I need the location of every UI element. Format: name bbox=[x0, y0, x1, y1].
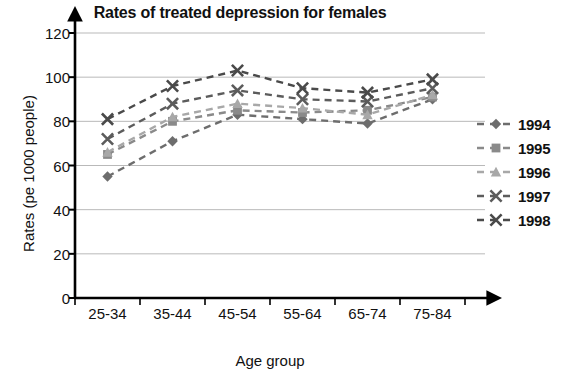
y-tick-label-0: 0 bbox=[34, 290, 70, 307]
legend-label: 1998 bbox=[518, 212, 550, 229]
chart-title: Rates of treated depression for females bbox=[0, 4, 480, 22]
legend-item-1994[interactable]: 1994 bbox=[476, 112, 568, 136]
series-1996 bbox=[102, 90, 437, 157]
marker-diamond bbox=[167, 136, 177, 146]
legend-marker-square-icon bbox=[476, 138, 516, 158]
series-line-1997 bbox=[108, 88, 433, 139]
y-axis-tick-labels: 020406080100120 bbox=[28, 33, 70, 298]
y-tick-label-80: 80 bbox=[34, 113, 70, 130]
marker-x bbox=[297, 83, 308, 94]
legend-item-1996[interactable]: 1996 bbox=[476, 160, 568, 184]
marker-x bbox=[102, 133, 113, 144]
x-tick-label-45-54: 45-54 bbox=[203, 305, 273, 322]
x-axis-tick-labels: 25-3435-4445-5455-6465-7475-84 bbox=[75, 305, 465, 329]
y-tick-label-60: 60 bbox=[34, 157, 70, 174]
series-line-1996 bbox=[108, 95, 433, 152]
x-axis-title: Age group bbox=[75, 352, 465, 369]
legend-label: 1994 bbox=[518, 116, 550, 133]
marker-diamond bbox=[491, 119, 501, 129]
x-tick-label-35-44: 35-44 bbox=[138, 305, 208, 322]
x-tick-label-65-74: 65-74 bbox=[333, 305, 403, 322]
plot-area bbox=[75, 33, 465, 298]
legend-label: 1997 bbox=[518, 188, 550, 205]
chart-legend: 19941995199619971998 bbox=[476, 112, 568, 232]
legend-item-1998[interactable]: 1998 bbox=[476, 208, 568, 232]
marker-square bbox=[492, 144, 501, 153]
x-tick-label-25-34: 25-34 bbox=[73, 305, 143, 322]
series-1995 bbox=[103, 93, 437, 159]
legend-label: 1995 bbox=[518, 140, 550, 157]
y-tick-label-100: 100 bbox=[34, 69, 70, 86]
chart-figure: Rates of treated depression for females … bbox=[0, 0, 569, 383]
marker-diamond bbox=[102, 171, 112, 181]
x-tick-label-75-84: 75-84 bbox=[398, 305, 468, 322]
legend-marker-diamond-icon bbox=[476, 114, 516, 134]
series-1997 bbox=[102, 83, 438, 145]
y-tick-label-120: 120 bbox=[34, 25, 70, 42]
plot-svg bbox=[75, 33, 465, 298]
x-tick-label-55-64: 55-64 bbox=[268, 305, 338, 322]
legend-item-1997[interactable]: 1997 bbox=[476, 184, 568, 208]
marker-x bbox=[427, 74, 438, 85]
legend-marker-triangle-icon bbox=[476, 162, 516, 182]
legend-label: 1996 bbox=[518, 164, 550, 181]
legend-marker-x-icon bbox=[476, 210, 516, 230]
y-tick-label-20: 20 bbox=[34, 245, 70, 262]
marker-x bbox=[102, 114, 113, 125]
legend-marker-x-icon bbox=[476, 186, 516, 206]
y-tick-label-40: 40 bbox=[34, 201, 70, 218]
legend-item-1995[interactable]: 1995 bbox=[476, 136, 568, 160]
marker-diamond bbox=[362, 118, 372, 128]
